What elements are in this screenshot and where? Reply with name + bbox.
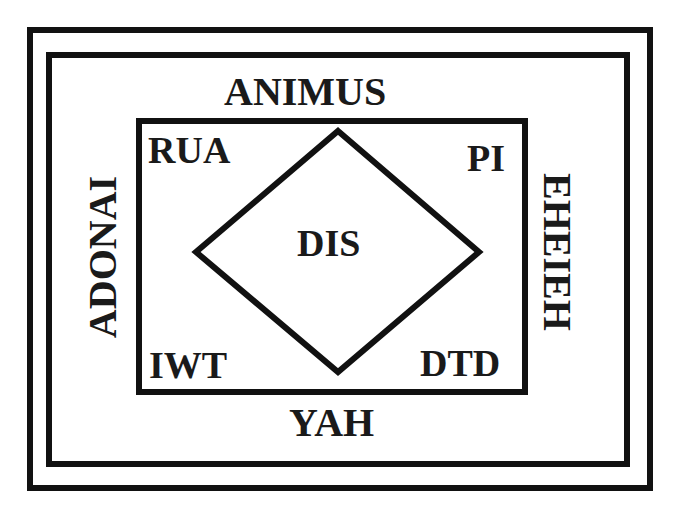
corner-label-bottom-right: DTD [420, 344, 500, 382]
center-label: DIS [297, 224, 360, 262]
top-label: ANIMUS [224, 72, 386, 112]
bottom-label: YAH [289, 403, 374, 443]
left-label: ADONAI [83, 157, 123, 357]
corner-label-top-left: RUA [148, 131, 230, 169]
corner-label-bottom-left: IWT [149, 346, 227, 384]
right-label: EHEIEH [537, 152, 577, 352]
corner-label-top-right: PI [467, 139, 505, 177]
